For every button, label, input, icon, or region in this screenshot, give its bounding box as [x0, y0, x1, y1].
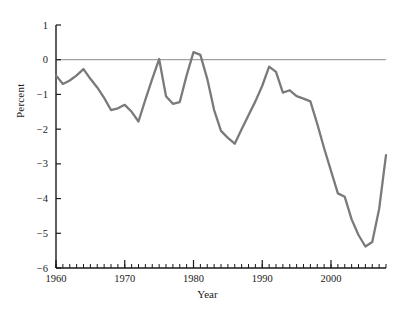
y-tick-label: −6: [37, 263, 48, 274]
x-tick-label: 1970: [114, 273, 135, 284]
x-tick-label: 1980: [183, 273, 204, 284]
x-axis-tick-labels: 19601970198019902000: [46, 273, 342, 284]
y-tick-label: −4: [37, 193, 49, 204]
y-tick-label: −1: [37, 89, 48, 100]
y-tick-label: −5: [37, 228, 48, 239]
x-tick-label: 1960: [46, 273, 67, 284]
data-series-line: [56, 52, 386, 246]
line-chart-plot: 10−1−2−3−4−5−6 19601970198019902000: [0, 0, 415, 313]
y-tick-label: 0: [43, 54, 48, 65]
y-axis-tick-labels: 10−1−2−3−4−5−6: [37, 20, 49, 274]
y-tick-label: −2: [37, 124, 48, 135]
y-axis-ticks: [56, 25, 61, 268]
y-tick-label: −3: [37, 158, 48, 169]
x-tick-label: 2000: [321, 273, 342, 284]
y-axis-label: Percent: [14, 84, 26, 118]
x-axis-label: Year: [0, 288, 415, 300]
chart-figure: 10−1−2−3−4−5−6 19601970198019902000 Perc…: [0, 0, 415, 313]
y-tick-label: 1: [43, 20, 48, 31]
x-tick-label: 1990: [252, 273, 273, 284]
